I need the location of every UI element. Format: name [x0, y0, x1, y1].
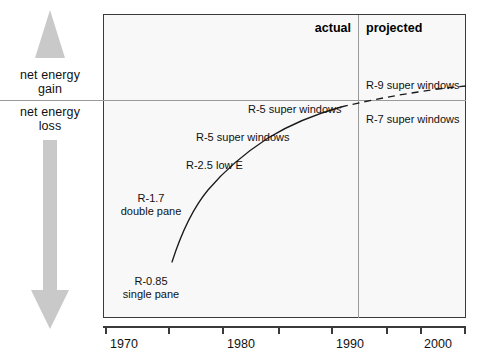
header-actual: actual: [283, 21, 351, 35]
x-tick-label-1970: 1970: [110, 337, 138, 351]
annotation-r5-upper: R-5 super windows: [248, 103, 342, 116]
annotation-r7: R-7 super windows: [366, 113, 460, 126]
annotation-r17-line2: double pane: [113, 205, 189, 218]
annotation-r5-lower: R-5 super windows: [196, 131, 290, 144]
x-tick-1985: [278, 327, 280, 334]
annotation-r085-line1: R-0.85: [113, 275, 189, 288]
x-tick-1995: [386, 327, 388, 334]
annotation-r25: R-2.5 low E: [186, 159, 243, 172]
net-energy-loss-label: net energy loss: [2, 105, 98, 133]
net-energy-gain-line2: gain: [2, 82, 98, 96]
annotation-r085: R-0.85 single pane: [113, 275, 189, 300]
annotation-r085-line2: single pane: [113, 288, 189, 301]
up-arrow-icon: [28, 8, 72, 60]
figure-container: net energy gain net energy loss actual p…: [0, 0, 479, 361]
x-tick-1975: [168, 327, 170, 334]
figure-caption: [118, 355, 468, 361]
x-tick-1970: [105, 327, 107, 334]
break-even-gridline: [0, 100, 466, 101]
x-tick-2005: [464, 327, 466, 334]
x-tick-2000: [420, 327, 422, 334]
net-energy-gain-label: net energy gain: [2, 68, 98, 96]
down-arrow-icon: [28, 140, 72, 330]
x-tick-1980: [222, 327, 224, 334]
plot-area: [103, 14, 466, 318]
x-axis-line: [103, 326, 466, 328]
x-tick-1990: [331, 327, 333, 334]
annotation-r17: R-1.7 double pane: [113, 192, 189, 217]
header-projected: projected: [366, 21, 422, 35]
net-energy-loss-line2: loss: [2, 119, 98, 133]
net-energy-gain-line1: net energy: [2, 68, 98, 82]
annotation-r17-line1: R-1.7: [113, 192, 189, 205]
annotation-r9: R-9 super windows: [366, 79, 460, 92]
x-tick-label-1990: 1990: [336, 337, 364, 351]
x-tick-label-1980: 1980: [227, 337, 255, 351]
x-tick-label-2000: 2000: [424, 337, 452, 351]
net-energy-loss-line1: net energy: [2, 105, 98, 119]
actual-projected-divider: [358, 15, 359, 318]
